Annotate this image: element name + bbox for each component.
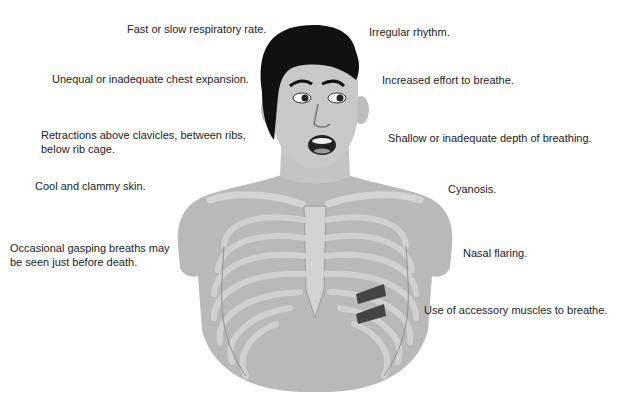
label-retractions-line1: Retractions above clavicles, between rib… xyxy=(41,128,246,142)
label-chest-expansion: Unequal or inadequate chest expansion. xyxy=(52,72,249,86)
label-gasping-line1: Occasional gasping breaths may xyxy=(10,241,170,255)
label-irregular-rhythm: Irregular rhythm. xyxy=(369,25,450,39)
label-cyanosis: Cyanosis. xyxy=(448,182,496,196)
label-increased-effort: Increased effort to breathe. xyxy=(382,73,514,87)
patient-illustration xyxy=(0,0,627,401)
label-gasping-line2: be seen just before death. xyxy=(10,255,137,269)
label-cool-clammy-skin: Cool and clammy skin. xyxy=(35,179,146,193)
label-accessory-muscles: Use of accessory muscles to breathe. xyxy=(424,303,607,317)
label-respiratory-rate: Fast or slow respiratory rate. xyxy=(127,22,266,36)
label-nasal-flaring: Nasal flaring. xyxy=(463,246,527,260)
label-retractions-line2: below rib cage. xyxy=(41,142,115,156)
label-shallow-breathing: Shallow or inadequate depth of breathing… xyxy=(388,131,592,145)
